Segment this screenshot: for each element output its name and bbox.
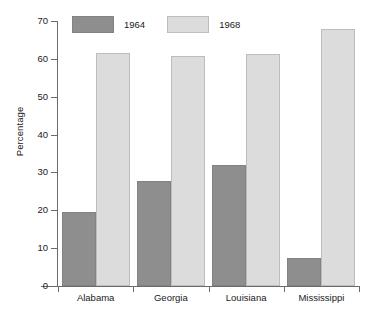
legend-item-1968: 1968 — [167, 16, 262, 33]
y-tick-label: 50 — [20, 91, 48, 102]
legend: 1964 1968 — [72, 16, 262, 33]
legend-item-1964: 1964 — [72, 16, 167, 33]
bar-georgia-1964 — [137, 181, 171, 286]
y-tick — [51, 172, 57, 173]
x-tick — [133, 286, 134, 292]
y-tick-label: 0 — [20, 280, 48, 291]
y-tick-label: 10 — [20, 242, 48, 253]
x-axis-label-alabama: Alabama — [77, 292, 115, 303]
y-tick — [51, 210, 57, 211]
bar-chart: Percentage 010203040506070 AlabamaGeorgi… — [0, 0, 368, 311]
x-tick — [359, 286, 360, 292]
y-tick-label: 20 — [20, 204, 48, 215]
bar-louisiana-1964 — [212, 165, 246, 286]
y-tick-label: 60 — [20, 53, 48, 64]
x-axis-line — [41, 286, 359, 287]
y-tick-label: 70 — [20, 15, 48, 26]
legend-label-1968: 1968 — [219, 19, 240, 30]
bar-mississippi-1968 — [321, 29, 355, 286]
bar-louisiana-1968 — [246, 54, 280, 286]
bar-mississippi-1964 — [287, 258, 321, 286]
x-axis-label-mississippi: Mississippi — [298, 292, 344, 303]
x-tick — [284, 286, 285, 292]
bar-georgia-1968 — [171, 56, 205, 286]
bar-alabama-1968 — [96, 53, 130, 286]
legend-swatch-1964 — [72, 16, 114, 33]
y-tick — [51, 21, 57, 22]
x-axis-label-louisiana: Louisiana — [226, 292, 267, 303]
legend-label-1964: 1964 — [124, 19, 145, 30]
legend-swatch-1968 — [167, 16, 209, 33]
y-tick — [51, 97, 57, 98]
x-axis-label-georgia: Georgia — [154, 292, 188, 303]
y-tick-label: 40 — [20, 129, 48, 140]
bar-alabama-1964 — [62, 212, 96, 286]
x-tick — [58, 286, 59, 292]
x-tick — [209, 286, 210, 292]
y-tick-label: 30 — [20, 166, 48, 177]
plot-area — [58, 21, 359, 286]
y-tick — [51, 286, 57, 287]
y-tick — [51, 248, 57, 249]
y-tick — [51, 135, 57, 136]
y-tick — [51, 59, 57, 60]
